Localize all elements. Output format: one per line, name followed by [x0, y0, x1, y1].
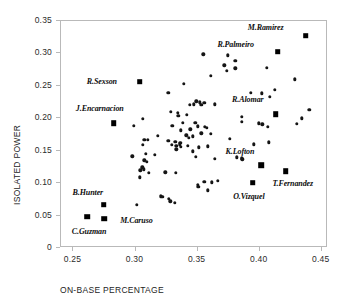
data-point [156, 134, 159, 137]
y-tick-label: 0 [20, 242, 52, 252]
data-point [209, 74, 212, 77]
data-point [174, 171, 177, 174]
highlighted-data-point [111, 120, 117, 126]
data-point [240, 115, 243, 118]
scatter-plot-figure: M.RamirezR.PalmeiroR.SexsonJ.Encarnacion… [0, 0, 346, 304]
data-point [209, 132, 212, 135]
point-label: C.Guzman [72, 226, 107, 235]
data-point [187, 136, 190, 139]
data-point [200, 131, 203, 134]
data-point [175, 148, 178, 151]
point-label: R.Palmeiro [217, 39, 254, 48]
data-point [185, 113, 188, 116]
data-point [267, 141, 270, 144]
highlighted-data-point [250, 180, 256, 186]
data-point [260, 123, 263, 126]
data-point [141, 117, 144, 120]
y-tick-label: 0.25 [20, 80, 52, 90]
data-point [174, 140, 177, 143]
point-label: K.Lofton [226, 146, 255, 155]
data-point [197, 185, 200, 188]
data-point [139, 169, 142, 172]
data-point [186, 144, 189, 147]
data-point [295, 122, 298, 125]
data-point [206, 144, 209, 147]
data-point [147, 171, 150, 174]
data-point [235, 155, 238, 158]
data-point [164, 171, 167, 174]
data-point [144, 152, 147, 155]
y-tick-mark [56, 85, 60, 86]
data-point [138, 176, 141, 179]
data-point [203, 180, 206, 183]
data-point [200, 103, 203, 106]
highlighted-data-point [137, 79, 143, 85]
highlighted-data-point [275, 49, 281, 55]
y-tick-mark [56, 20, 60, 21]
data-point [197, 145, 200, 148]
data-point [191, 150, 194, 153]
highlighted-data-point [102, 216, 108, 222]
point-label: O.Vizquel [233, 191, 264, 200]
data-point [203, 101, 206, 104]
x-tick-mark [259, 247, 260, 251]
data-point [141, 143, 144, 146]
data-point [228, 137, 231, 140]
data-point [206, 189, 209, 192]
data-point [196, 125, 199, 128]
data-point [210, 180, 213, 183]
y-tick-mark [56, 150, 60, 151]
y-tick-label: 0.20 [20, 112, 52, 122]
data-point [191, 135, 194, 138]
point-label: M.Caruso [120, 215, 152, 224]
data-point [234, 59, 237, 62]
data-point [145, 160, 148, 163]
x-tick-mark [321, 247, 322, 251]
data-point [142, 167, 145, 170]
x-tick-mark [72, 247, 73, 251]
y-tick-mark [56, 52, 60, 53]
point-label: J.Encarnacion [76, 104, 124, 113]
point-label: R.Alomar [232, 95, 263, 104]
highlighted-data-point [283, 168, 289, 174]
data-point [234, 67, 237, 70]
x-tick-label: 0.45 [312, 254, 329, 264]
x-tick-label: 0.25 [64, 254, 81, 264]
data-point [192, 103, 195, 106]
data-point [131, 155, 134, 158]
x-tick-label: 0.35 [188, 254, 205, 264]
data-point [265, 66, 268, 69]
data-point [225, 69, 228, 72]
point-label: R.Sexson [87, 76, 117, 85]
data-point [146, 138, 149, 141]
data-point [177, 114, 180, 117]
data-point [169, 110, 172, 113]
data-point [213, 103, 216, 106]
y-tick-label: 0.35 [20, 15, 52, 25]
data-point [179, 129, 182, 132]
data-point [170, 143, 173, 146]
data-point [135, 203, 138, 206]
data-point [132, 124, 135, 127]
data-point [179, 145, 182, 148]
y-tick-label: 0.15 [20, 145, 52, 155]
x-tick-mark [135, 247, 136, 251]
data-point [308, 108, 311, 111]
highlighted-data-point [303, 33, 309, 39]
data-point [240, 120, 243, 123]
plot-area: M.RamirezR.PalmeiroR.SexsonJ.Encarnacion… [60, 20, 327, 247]
data-point [201, 53, 204, 56]
highlighted-data-point [258, 162, 264, 168]
data-point [213, 157, 216, 160]
data-point [223, 64, 226, 67]
data-point [161, 195, 164, 198]
point-label: B.Hunter [73, 187, 104, 196]
x-tick-mark [197, 247, 198, 251]
data-point [182, 82, 185, 85]
highlighted-data-point [273, 112, 279, 118]
data-point [188, 128, 191, 131]
point-label: M.Ramirez [248, 22, 284, 31]
y-tick-mark [56, 182, 60, 183]
y-axis-title: ISOLATED POWER [12, 125, 22, 205]
data-point [170, 124, 173, 127]
